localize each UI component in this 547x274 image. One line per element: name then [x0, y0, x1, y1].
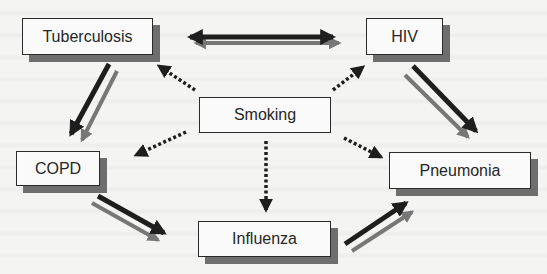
node-influenza: Influenza: [198, 221, 331, 257]
node-hiv: HIV: [366, 18, 443, 55]
node-label: Smoking: [234, 106, 296, 124]
node-label: COPD: [35, 160, 81, 178]
node-label: Tuberculosis: [42, 28, 132, 46]
node-label: Pneumonia: [420, 162, 501, 180]
node-copd: COPD: [16, 151, 100, 186]
node-tuberculosis: Tuberculosis: [22, 18, 153, 55]
node-pneumonia: Pneumonia: [389, 152, 531, 189]
edge-smoking-pneumonia: [344, 138, 381, 157]
edge-tuberculosis-hiv: [190, 37, 339, 43]
edge-influenza-pneumonia: [345, 203, 412, 251]
edge-tuberculosis-copd: [71, 64, 117, 140]
node-label: HIV: [391, 28, 418, 46]
edge-smoking-hiv: [333, 67, 363, 90]
edge-copd-influenza: [92, 196, 164, 240]
edge-smoking-copd: [136, 132, 186, 155]
edge-smoking-tuberculosis: [159, 66, 195, 90]
node-label: Influenza: [232, 230, 297, 248]
edge-hiv-pneumonia: [405, 66, 476, 137]
node-smoking: Smoking: [199, 97, 331, 133]
